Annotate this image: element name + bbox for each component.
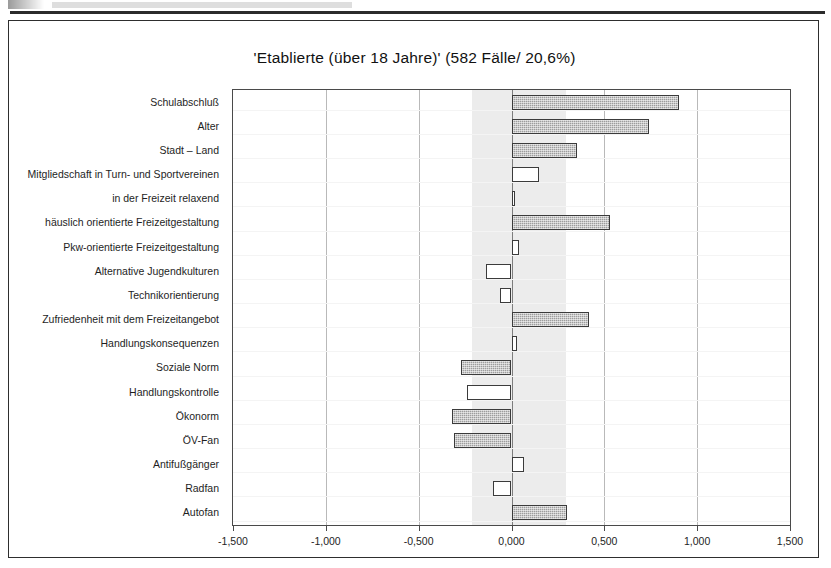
category-label: Radfan	[185, 483, 219, 494]
gridline	[604, 90, 605, 525]
axis-tick	[697, 526, 698, 531]
category-label: Autofan	[183, 507, 219, 518]
axis-tick	[512, 526, 513, 531]
bar	[500, 288, 511, 303]
bar	[452, 409, 511, 424]
scan-row-noise	[233, 327, 790, 328]
category-label: in der Freizeit relaxend	[112, 193, 219, 204]
bar	[512, 95, 679, 110]
category-label: Pkw-orientierte Freizeitgestaltung	[63, 242, 219, 253]
bar	[512, 457, 525, 472]
axis-tick-label: -0,500	[404, 535, 434, 547]
scan-row-noise	[233, 255, 790, 256]
plot-area	[232, 89, 791, 526]
scan-row-noise	[233, 376, 790, 377]
scan-row-noise	[233, 448, 790, 449]
axis-tick-label: 1,500	[777, 535, 803, 547]
scan-row-noise	[233, 231, 790, 232]
axis-tick	[326, 526, 327, 531]
bar	[512, 191, 516, 206]
category-label: Soziale Norm	[156, 362, 219, 373]
scan-row-noise	[233, 110, 790, 111]
scan-smudge	[8, 0, 44, 9]
bar	[512, 167, 540, 182]
bar	[512, 240, 519, 255]
axis-tick	[790, 526, 791, 531]
gridline	[697, 90, 698, 525]
axis-tick	[233, 526, 234, 531]
bar	[493, 481, 512, 496]
scan-row-noise	[233, 279, 790, 280]
plot-inner	[233, 90, 790, 525]
gridline	[419, 90, 420, 525]
category-label: Handlungskontrolle	[129, 387, 219, 398]
category-label: Ökonorm	[176, 411, 219, 422]
category-label: häuslich orientierte Freizeitgestaltung	[45, 217, 219, 228]
bar	[512, 336, 518, 351]
scan-row-noise	[233, 134, 790, 135]
category-label: Mitgliedschaft in Turn- und Sportvereine…	[28, 169, 219, 180]
bar	[467, 385, 512, 400]
scan-row-noise	[233, 472, 790, 473]
bar	[454, 433, 512, 448]
bar	[512, 215, 610, 230]
bar	[486, 264, 511, 279]
gridline	[326, 90, 327, 525]
category-label: Alternative Jugendkulturen	[95, 266, 219, 277]
scan-row-noise	[233, 400, 790, 401]
scan-row-noise	[233, 424, 790, 425]
bar	[512, 119, 649, 134]
scan-faint-line	[52, 2, 352, 8]
category-label: Antifußgänger	[153, 459, 219, 470]
scan-artifact-strip	[0, 0, 831, 16]
scan-row-noise	[233, 496, 790, 497]
axis-tick-label: -1,500	[218, 535, 248, 547]
category-label: Alter	[197, 121, 219, 132]
category-label: ÖV-Fan	[183, 435, 219, 446]
scan-row-noise	[233, 182, 790, 183]
bar	[512, 312, 590, 327]
axis-tick-label: 0,000	[498, 535, 524, 547]
category-label: Technikorientierung	[128, 290, 219, 301]
bar	[512, 505, 568, 520]
axis-tick-label: 1,000	[684, 535, 710, 547]
category-label: Handlungskonsequenzen	[100, 338, 219, 349]
scan-row-noise	[233, 521, 790, 522]
bar	[512, 143, 578, 158]
axis-tick-label: 0,500	[591, 535, 617, 547]
value-axis: -1,500-1,000-0,5000,0000,5001,0001,500	[232, 526, 791, 560]
axis-tick	[604, 526, 605, 531]
category-label: Stadt – Land	[159, 145, 219, 156]
category-label: Zufriedenheit mit dem Freizeitangebot	[42, 314, 219, 325]
scan-horizontal-rule	[10, 11, 825, 14]
category-label: Schulabschluß	[150, 97, 219, 108]
category-axis-labels: SchulabschlußAlterStadt – LandMitgliedsc…	[9, 89, 227, 526]
chart-title: 'Etablierte (über 18 Jahre)' (582 Fälle/…	[9, 49, 820, 67]
scan-row-noise	[233, 303, 790, 304]
scan-row-noise	[233, 158, 790, 159]
axis-tick	[419, 526, 420, 531]
axis-tick-label: -1,000	[311, 535, 341, 547]
bar	[461, 360, 511, 375]
figure-frame: 'Etablierte (über 18 Jahre)' (582 Fälle/…	[8, 20, 819, 558]
